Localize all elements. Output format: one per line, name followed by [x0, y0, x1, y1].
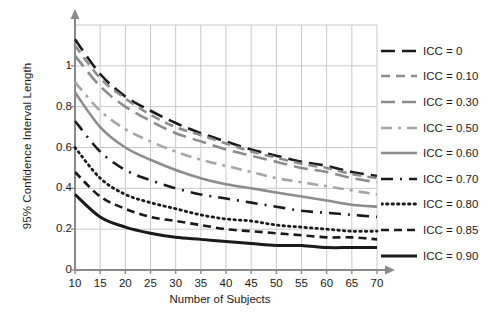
legend-line-swatch	[381, 198, 417, 210]
x-axis-tick-label: 70	[362, 277, 392, 289]
legend-item-label: ICC = 0.85	[423, 224, 478, 236]
legend-item[interactable]: ICC = 0	[381, 38, 493, 64]
legend-item-label: ICC = 0.10	[423, 70, 478, 82]
legend-line-swatch	[381, 147, 417, 159]
legend-item[interactable]: ICC = 0.10	[381, 64, 493, 90]
legend-item[interactable]: ICC = 0.60	[381, 140, 493, 166]
legend-item-label: ICC = 0.70	[423, 173, 478, 185]
chart-legend: ICC = 0ICC = 0.10ICC = 0.30ICC = 0.50ICC…	[381, 38, 493, 268]
legend-line-swatch	[381, 173, 417, 185]
legend-line-swatch	[381, 45, 417, 57]
legend-item[interactable]: ICC = 0.50	[381, 115, 493, 141]
legend-item[interactable]: ICC = 0.90	[381, 243, 493, 269]
legend-item[interactable]: ICC = 0.30	[381, 89, 493, 115]
legend-item[interactable]: ICC = 0.70	[381, 166, 493, 192]
chart-figure: 95% Confidence Interval Length 00.20.40.…	[0, 0, 497, 321]
legend-item-label: ICC = 0.30	[423, 96, 478, 108]
legend-item-label: ICC = 0.60	[423, 147, 478, 159]
legend-line-swatch	[381, 122, 417, 134]
legend-line-swatch	[381, 96, 417, 108]
legend-line-swatch	[381, 250, 417, 262]
x-axis-title: Number of Subjects	[60, 293, 380, 305]
legend-item-label: ICC = 0.80	[423, 198, 478, 210]
legend-item-label: ICC = 0	[423, 45, 462, 57]
legend-item-label: ICC = 0.50	[423, 122, 478, 134]
legend-line-swatch	[381, 70, 417, 82]
legend-item[interactable]: ICC = 0.80	[381, 192, 493, 218]
legend-item-label: ICC = 0.90	[423, 250, 478, 262]
legend-item[interactable]: ICC = 0.85	[381, 217, 493, 243]
legend-line-swatch	[381, 224, 417, 236]
